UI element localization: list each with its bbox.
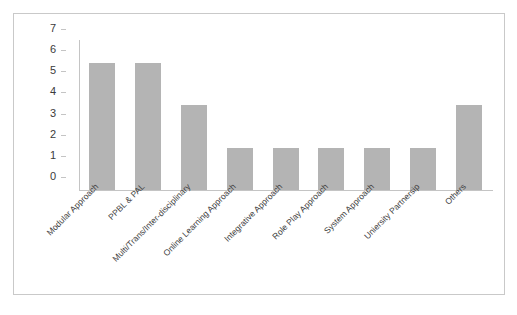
chart-screenshot: 01234567 Modular ApproachPPBL & PALMulti… [0,0,517,315]
y-axis-tick [61,71,66,72]
y-axis-tick [61,135,66,136]
y-axis-tick-label-text: 4 [36,86,56,97]
bar [135,63,161,190]
x-axis-label-text: Multi/Trans/Inter-disciplinary [111,182,192,263]
y-axis-tick [61,177,66,178]
bar [89,63,115,190]
y-axis-tick-label: 6 [36,44,56,56]
y-axis-tick-label: 2 [36,129,56,141]
y-axis-tick-label: 0 [36,171,56,183]
y-axis-tick-label: 4 [36,86,56,98]
chart-frame: 01234567 Modular ApproachPPBL & PALMulti… [13,13,505,295]
y-axis-tick [61,156,66,157]
y-axis-tick-label: 5 [36,65,56,77]
y-axis-tick [61,114,66,115]
y-axis-tick-label-text: 5 [36,65,56,76]
y-axis-tick-label: 1 [36,150,56,162]
y-axis-tick-label: 3 [36,108,56,120]
plot-area [79,42,492,190]
y-axis-tick-label-text: 1 [36,150,56,161]
bar [181,105,207,190]
y-axis-tick-label-text: 2 [36,129,56,140]
x-axis-label-text: Modular Approach [45,182,100,237]
y-axis-tick [61,29,66,30]
bar [456,105,482,190]
y-axis-tick-label-text: 3 [36,108,56,119]
y-axis-tick-label-text: 6 [36,44,56,55]
y-axis-tick [61,92,66,93]
y-axis-tick [61,50,66,51]
y-axis-tick-label-text: 0 [36,171,56,182]
y-axis-tick-label-text: 7 [36,23,56,34]
y-axis-tick-label: 7 [36,23,56,35]
